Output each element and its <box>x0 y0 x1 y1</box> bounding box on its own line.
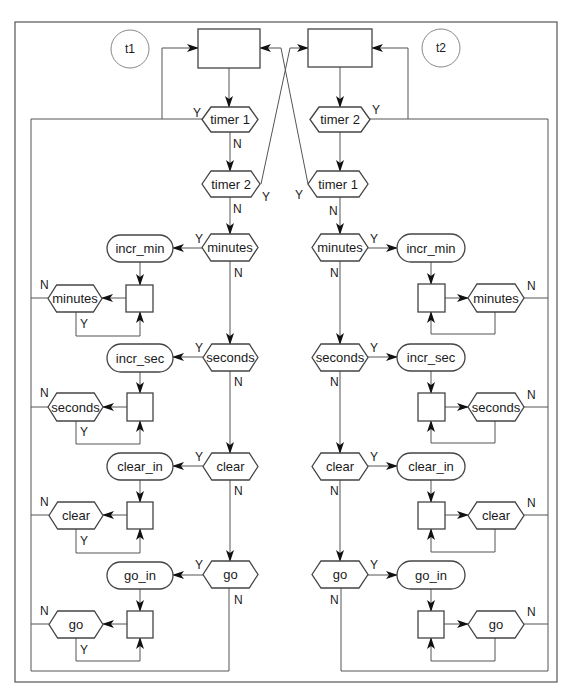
yes-branch-label: Y <box>370 450 378 464</box>
action-node: incr_min <box>397 234 465 262</box>
state-box <box>418 502 445 529</box>
decision-node: timer 1 <box>202 107 258 132</box>
state-box <box>127 611 153 638</box>
decision-node: seconds <box>468 393 524 421</box>
no-branch-label: N <box>234 593 243 607</box>
node-label: clear <box>482 508 511 523</box>
decision-node: minutes <box>468 284 524 312</box>
node-label: clear_in <box>117 459 163 474</box>
node-label: go <box>223 567 237 582</box>
no-branch-label: N <box>527 605 536 619</box>
connector-line <box>431 638 495 661</box>
no-branch-label: N <box>527 388 536 402</box>
state-box <box>418 393 445 421</box>
decision-node: seconds <box>48 393 103 421</box>
decision-node: minutes <box>48 285 102 312</box>
yes-branch-label: Y <box>370 341 378 355</box>
connector-line <box>431 529 495 552</box>
node-label: minutes <box>52 291 98 306</box>
yes-branch-label: Y <box>372 103 380 117</box>
process-marker-label: t2 <box>436 41 446 55</box>
yes-branch-label: Y <box>80 425 88 439</box>
decision-node: timer 2 <box>310 107 370 132</box>
no-branch-label: N <box>234 484 243 498</box>
state-box <box>418 611 444 638</box>
connector-line <box>431 312 495 334</box>
decision-node: clear <box>49 502 103 529</box>
no-branch-label: N <box>40 604 49 618</box>
yes-branch-label: Y <box>195 450 203 464</box>
no-branch-label: N <box>40 278 49 292</box>
flowchart-canvas: timer 1timer 2timer 2timer 1minutesincr_… <box>0 0 569 694</box>
node-label: incr_min <box>406 241 455 256</box>
state-box <box>126 285 153 312</box>
connector-line <box>260 48 308 184</box>
process-marker-t1: t1 <box>111 30 149 68</box>
yes-branch-label: Y <box>195 341 203 355</box>
yes-branch-label: Y <box>295 188 303 202</box>
node-label: go <box>489 617 503 632</box>
node-label: timer 1 <box>210 112 250 127</box>
no-branch-label: N <box>330 375 339 389</box>
process-marker-t2: t2 <box>422 29 460 67</box>
node-label: timer 2 <box>320 112 360 127</box>
no-branch-label: N <box>40 386 49 400</box>
node-label: minutes <box>317 240 363 255</box>
decision-node: minutes <box>312 234 368 261</box>
decision-node: minutes <box>202 234 258 261</box>
node-label: go_in <box>415 568 447 583</box>
connector-line <box>431 421 495 443</box>
action-node: incr_sec <box>107 344 173 372</box>
node-label: seconds <box>472 400 521 415</box>
action-node: incr_min <box>107 235 173 262</box>
action-node: go_in <box>107 562 173 589</box>
decision-node: go <box>468 611 524 638</box>
decision-node: timer 1 <box>308 171 368 197</box>
yes-branch-label: Y <box>80 643 88 657</box>
yes-branch-label: Y <box>80 534 88 548</box>
decision-node: clear <box>203 453 258 480</box>
node-label: seconds <box>206 350 255 365</box>
no-branch-label: N <box>330 593 339 607</box>
state-box <box>198 29 260 68</box>
action-node: clear_in <box>107 453 173 480</box>
no-branch-label: N <box>330 266 339 280</box>
node-label: seconds <box>51 400 100 415</box>
yes-branch-label: Y <box>193 106 201 120</box>
node-label: clear <box>62 508 91 523</box>
process-marker-label: t1 <box>125 42 135 56</box>
node-label: go <box>69 617 83 632</box>
connector-line <box>261 48 308 184</box>
yes-branch-label: Y <box>370 232 378 246</box>
flowchart-diagram: timer 1timer 2timer 2timer 1minutesincr_… <box>0 0 569 694</box>
yes-branch-label: Y <box>370 558 378 572</box>
no-branch-label: N <box>330 484 339 498</box>
no-branch-label: N <box>329 204 338 218</box>
node-label: incr_min <box>115 241 164 256</box>
node-label: clear <box>326 459 355 474</box>
no-branch-label: N <box>527 496 536 510</box>
no-branch-label: N <box>527 279 536 293</box>
state-box <box>127 502 153 529</box>
no-branch-label: N <box>234 266 243 280</box>
yes-branch-label: Y <box>80 317 88 331</box>
node-label: go_in <box>124 568 156 583</box>
yes-branch-label: Y <box>195 558 203 572</box>
decision-node: go <box>49 611 103 638</box>
decision-node: timer 2 <box>202 171 260 197</box>
action-node: incr_sec <box>397 344 465 371</box>
decision-node: go <box>312 561 368 588</box>
no-branch-label: N <box>40 495 49 509</box>
node-label: timer 1 <box>318 177 358 192</box>
node-label: minutes <box>473 291 519 306</box>
node-label: minutes <box>207 240 253 255</box>
decision-node: clear <box>468 502 524 529</box>
node-label: timer 2 <box>211 177 251 192</box>
no-branch-label: N <box>233 137 242 151</box>
node-label: clear <box>216 459 245 474</box>
node-label: incr_sec <box>116 351 165 366</box>
decision-node: seconds <box>203 344 258 371</box>
yes-branch-label: Y <box>262 190 270 204</box>
node-label: go <box>333 567 347 582</box>
no-branch-label: N <box>233 202 242 216</box>
